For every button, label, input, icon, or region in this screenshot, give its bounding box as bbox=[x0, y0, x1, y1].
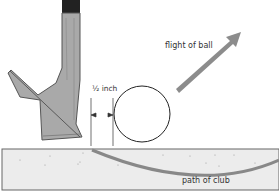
ground bbox=[2, 149, 279, 190]
flight-of-ball-label: flight of ball bbox=[165, 41, 213, 50]
golf-ball bbox=[114, 86, 170, 142]
gap-label: ½ inch bbox=[92, 84, 117, 93]
club-head bbox=[8, 13, 82, 140]
path-of-club-label: path of club bbox=[182, 176, 230, 185]
gap-measurement bbox=[91, 98, 113, 146]
club-shaft bbox=[62, 0, 80, 13]
golf-wedge-diagram bbox=[0, 0, 279, 193]
